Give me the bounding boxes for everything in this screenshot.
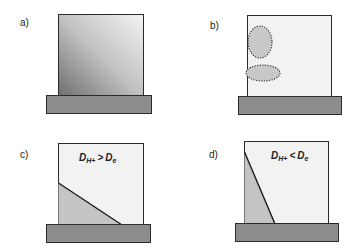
substrate-base — [47, 96, 152, 114]
equation-c: DH+>De — [79, 152, 116, 164]
panel-b: b) — [210, 16, 342, 115]
panel-label-d: d) — [209, 149, 218, 160]
diagram-canvas: a) b) c) DH+>De d) DH+<De — [0, 0, 355, 252]
substrate-base — [239, 97, 342, 115]
equation-d: DH+<De — [271, 150, 308, 162]
substrate-base — [47, 225, 151, 243]
substrate-base — [236, 224, 339, 242]
upper-ellipse-region — [248, 26, 272, 58]
panel-a: a) — [20, 15, 152, 114]
panel-c: c) DH+>De — [20, 144, 151, 243]
gradient-block — [59, 15, 144, 97]
panel-label-a: a) — [20, 17, 29, 28]
panel-label-b: b) — [210, 20, 219, 31]
panel-d: d) DH+<De — [209, 142, 339, 242]
panel-label-c: c) — [20, 149, 28, 160]
lower-ellipse-region — [246, 65, 280, 81]
